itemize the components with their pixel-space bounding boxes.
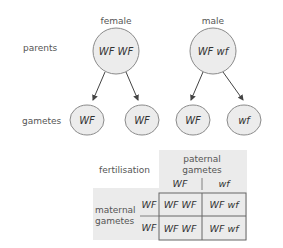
row-label-parents: parents [23,43,58,53]
gamete-node: WF [176,105,210,135]
punnett-cell: WF wf [210,223,241,234]
female-parent-node: WF WF [93,28,139,74]
gamete-node: WF [70,105,104,135]
male-genotype: WF wf [198,46,230,57]
column-header: wf [218,178,231,189]
arrow-male-to-gamete-1 [191,72,203,100]
gamete-allele: wf [238,115,251,126]
male-label: male [202,16,225,26]
row-header: WF [142,222,157,233]
paternal-header-line1: paternal [183,154,221,164]
maternal-header-line2: gametes [95,216,135,226]
punnett-square: fertilisation paternal gametes maternal … [93,150,247,240]
gamete-node: WF [125,105,159,135]
maternal-header-line1: maternal [95,205,136,215]
gamete-node: wf [227,105,261,135]
punnett-cell: WF WF [164,223,197,234]
column-header: WF [173,178,188,189]
fertilisation-label: fertilisation [99,165,150,175]
genetic-cross-diagram: parents gametes female male WF WF WF wf … [0,0,283,248]
female-genotype: WF WF [99,46,134,57]
arrow-female-to-gamete-2 [126,72,138,100]
punnett-cell: WF WF [164,199,197,210]
arrow-male-to-gamete-2 [223,72,243,100]
punnett-cell: WF wf [210,199,241,210]
female-label: female [100,16,131,26]
male-parent-node: WF wf [190,28,236,74]
paternal-header-line2: gametes [182,165,222,175]
gamete-allele: WF [185,115,201,126]
gamete-allele: WF [134,115,150,126]
arrow-female-to-gamete-1 [93,72,105,100]
row-header: WF [142,199,157,210]
row-label-gametes: gametes [22,116,62,126]
gamete-allele: WF [79,115,95,126]
